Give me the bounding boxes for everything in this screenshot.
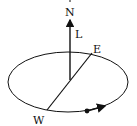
label-east: E: [93, 43, 101, 56]
orbit-diagram: N L E W: [0, 0, 137, 126]
orbit-ellipse: [8, 52, 128, 112]
label-north: N: [65, 6, 75, 19]
label-angular-momentum: L: [75, 28, 83, 41]
velocity-arrow: [87, 106, 105, 111]
label-west: W: [33, 114, 45, 126]
diagram-canvas: N L E W: [0, 0, 137, 126]
